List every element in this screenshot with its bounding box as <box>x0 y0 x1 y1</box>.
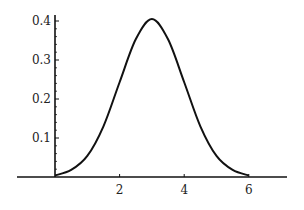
y-tick-label: 0.4 <box>32 14 51 28</box>
y-tick-label: 0.1 <box>32 131 51 145</box>
chart: 246 0.10.20.30.4 <box>0 0 304 210</box>
y-tick-label: 0.2 <box>32 92 51 106</box>
x-tick-label: 6 <box>245 183 253 197</box>
y-tick-label: 0.3 <box>32 53 51 67</box>
data-curve <box>55 19 249 175</box>
plot-area: 246 0.10.20.30.4 <box>17 14 287 197</box>
x-tick-label: 4 <box>180 183 188 197</box>
x-tick-label: 2 <box>116 183 124 197</box>
